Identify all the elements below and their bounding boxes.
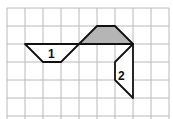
- shape-2-label: 2: [118, 69, 125, 83]
- grid-lines: [7, 8, 169, 119]
- grid-diagram: 1 2: [0, 0, 173, 119]
- shape-1-label: 1: [48, 47, 55, 61]
- shaded-shape: [79, 26, 133, 44]
